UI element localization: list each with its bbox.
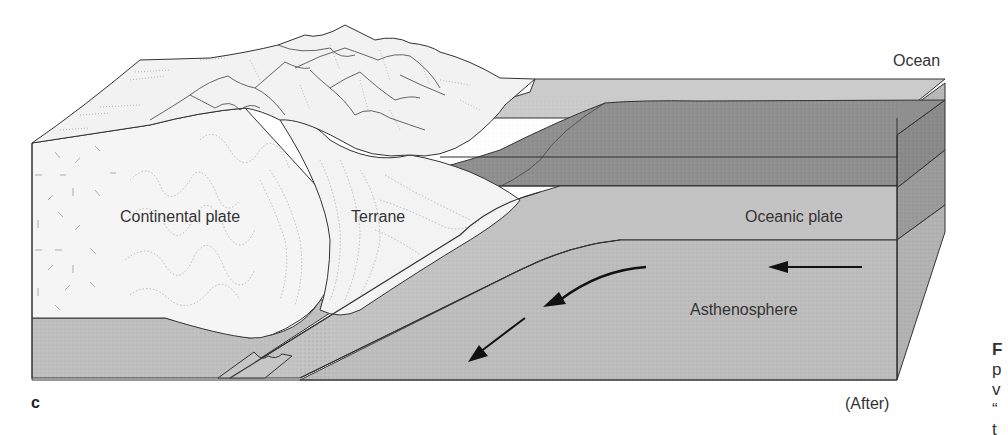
- caption-fragment: p: [992, 360, 1008, 380]
- caption-fragment: F: [992, 340, 1008, 360]
- ocean-sediment-layer: [440, 100, 945, 200]
- label-continental-plate: Continental plate: [120, 208, 240, 226]
- stage-label: (After): [845, 395, 889, 413]
- caption-fragment: t: [992, 420, 1008, 435]
- caption-fragment: “: [992, 400, 1008, 420]
- label-oceanic-plate: Oceanic plate: [745, 208, 843, 226]
- panel-letter: c: [31, 394, 40, 412]
- label-ocean: Ocean: [893, 52, 940, 70]
- cut-off-caption: F p v “ t: [992, 340, 1008, 435]
- label-asthenosphere: Asthenosphere: [690, 301, 798, 319]
- caption-fragment: v: [992, 380, 1008, 400]
- label-terrane: Terrane: [351, 208, 405, 226]
